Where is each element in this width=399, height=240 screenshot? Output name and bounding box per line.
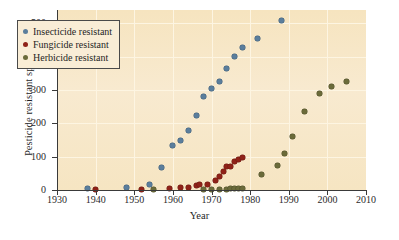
- x-tick-label: 1980: [230, 194, 270, 205]
- data-point: [178, 138, 183, 143]
- data-point: [217, 79, 222, 84]
- data-point: [240, 45, 245, 50]
- data-point: [302, 109, 307, 114]
- gridline-vertical: [134, 10, 135, 190]
- x-tick-label: 2000: [307, 194, 347, 205]
- y-tick: [52, 157, 58, 158]
- gridline-vertical: [212, 10, 213, 190]
- gridline-vertical: [327, 10, 328, 190]
- data-point: [217, 174, 222, 179]
- legend-label-herbicide: Herbicide resistant: [33, 52, 108, 64]
- data-point: [194, 113, 199, 118]
- x-tick-label: 1950: [114, 194, 154, 205]
- data-point: [279, 18, 284, 23]
- data-point: [209, 86, 214, 91]
- legend-marker-icon-fungicide: [23, 42, 28, 47]
- chart-legend: Insecticide resistant Fungicide resistan…: [17, 20, 120, 69]
- x-tick-label: 2010: [346, 194, 386, 205]
- x-tick-label: 1960: [153, 194, 193, 205]
- data-point: [259, 172, 264, 177]
- legend-item-insecticide: Insecticide resistant: [23, 25, 112, 38]
- legend-item-herbicide: Herbicide resistant: [23, 51, 112, 64]
- legend-label-fungicide: Fungicide resistant: [33, 39, 109, 51]
- data-point: [205, 182, 210, 187]
- legend-marker-icon-herbicide: [23, 55, 28, 60]
- x-axis-title: Year: [0, 210, 399, 221]
- data-point: [240, 155, 245, 160]
- data-point: [317, 91, 322, 96]
- x-tick-label: 1970: [192, 194, 232, 205]
- gridline-vertical: [289, 10, 290, 190]
- data-point: [228, 164, 233, 169]
- gridline-vertical: [173, 10, 174, 190]
- y-tick: [52, 90, 58, 91]
- x-tick-label: 1940: [76, 194, 116, 205]
- data-point: [124, 185, 129, 190]
- pesticide-resistance-scatter-chart: 0100200300400500 19301940195019601970198…: [0, 0, 399, 240]
- data-point: [159, 165, 164, 170]
- y-tick: [52, 123, 58, 124]
- legend-label-insecticide: Insecticide resistant: [33, 26, 112, 38]
- x-tick-label: 1930: [37, 194, 77, 205]
- data-point: [275, 163, 280, 168]
- data-point: [186, 128, 191, 133]
- legend-marker-icon-insecticide: [23, 29, 28, 34]
- gridline-vertical: [250, 10, 251, 190]
- data-point: [147, 182, 152, 187]
- data-point: [186, 185, 191, 190]
- x-tick-label: 1990: [269, 194, 309, 205]
- data-point: [329, 84, 334, 89]
- data-point: [170, 143, 175, 148]
- data-point: [221, 169, 226, 174]
- legend-item-fungicide: Fungicide resistant: [23, 38, 112, 51]
